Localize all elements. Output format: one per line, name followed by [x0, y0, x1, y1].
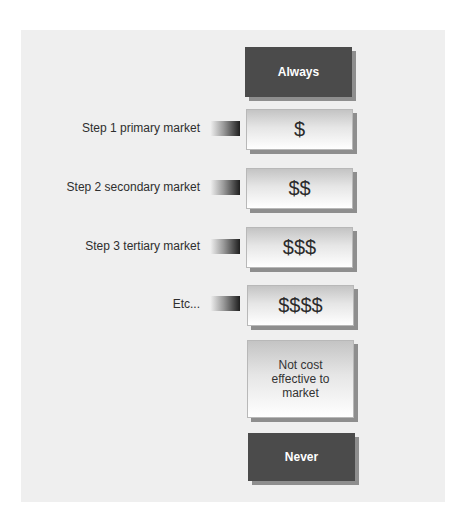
not-cost-effective-label: Not cost effective to market [256, 358, 346, 400]
step-1-cost: $ [294, 118, 305, 141]
not-cost-effective-box: Not cost effective to market [247, 340, 354, 418]
step-etc-label: Etc... [173, 297, 200, 311]
diagram-panel [21, 30, 445, 502]
step-3-connector [210, 239, 240, 254]
step-3-cost-box: $$$ [246, 227, 353, 268]
step-2-cost: $$ [288, 177, 310, 200]
never-label: Never [285, 450, 318, 464]
step-3-label: Step 3 tertiary market [85, 239, 200, 253]
step-1-label: Step 1 primary market [82, 121, 200, 135]
step-etc-connector [210, 296, 240, 311]
never-box: Never [248, 433, 355, 481]
always-box: Always [245, 47, 352, 97]
step-2-connector [210, 180, 240, 195]
step-etc-cost: $$$$ [278, 294, 323, 317]
step-2-label: Step 2 secondary market [67, 180, 200, 194]
step-2-cost-box: $$ [246, 168, 353, 209]
step-etc-cost-box: $$$$ [247, 285, 354, 326]
step-1-cost-box: $ [246, 109, 353, 150]
step-3-cost: $$$ [283, 236, 316, 259]
step-1-connector [210, 121, 240, 136]
always-label: Always [278, 65, 319, 79]
